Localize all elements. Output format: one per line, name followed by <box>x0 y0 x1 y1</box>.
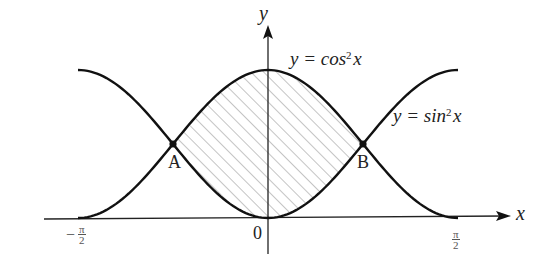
label-suffix: x <box>453 105 461 126</box>
denominator: 2 <box>79 235 85 245</box>
label-prefix: y = sin <box>393 105 446 126</box>
label-suffix: x <box>353 48 361 69</box>
point-a-label: A <box>168 152 181 173</box>
point-b-marker <box>359 140 366 147</box>
label-exponent: 2 <box>446 106 452 118</box>
cos-squared-label: y = cos2 x <box>290 48 362 70</box>
tick-label-neg-pi-over-2: − π 2 <box>66 224 86 245</box>
point-b-label: B <box>357 152 369 173</box>
sin-squared-label: y = sin2 x <box>393 105 461 127</box>
denominator: 2 <box>453 240 459 250</box>
fraction: π 2 <box>78 224 86 245</box>
x-axis-label: x <box>516 202 525 225</box>
minus-sign: − <box>66 226 75 244</box>
fraction: π 2 <box>452 229 460 250</box>
label-prefix: y = cos <box>290 48 346 69</box>
tick-label-pi-over-2: π 2 <box>452 224 460 250</box>
label-exponent: 2 <box>346 49 352 61</box>
origin-label: 0 <box>253 223 262 244</box>
point-a-marker <box>169 140 176 147</box>
y-axis-label: y <box>259 2 268 25</box>
